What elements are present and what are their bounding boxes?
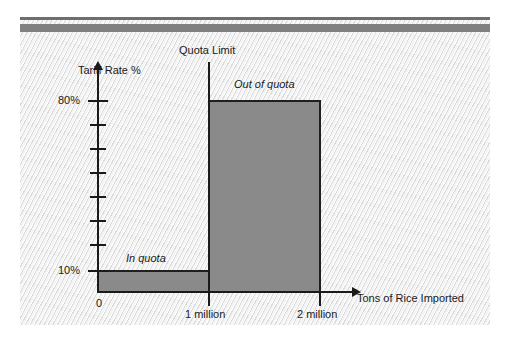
x-tick-1-million: [208, 293, 210, 306]
in-quota-label: In quota: [126, 252, 166, 264]
y-tick-minor-2: [90, 148, 106, 150]
bar-in-quota: [97, 270, 210, 293]
out-of-quota-label: Out of quota: [234, 78, 295, 90]
y-tick-minor-1: [90, 124, 106, 126]
y-tick-label-80: 80%: [58, 94, 80, 106]
quota-limit-line: [208, 62, 210, 294]
x-axis-title: Tons of Rice Imported: [357, 292, 464, 304]
y-tick-minor-6: [90, 244, 106, 246]
bar-out-of-quota: [208, 100, 321, 293]
origin-label: 0: [96, 297, 102, 309]
y-tick-80: [88, 100, 108, 102]
x-tick-2-million: [319, 293, 321, 306]
x-tick-label-2-million: 2 million: [297, 308, 337, 320]
x-axis-line: [97, 291, 356, 293]
quota-limit-label: Quota Limit: [179, 44, 235, 56]
x-tick-label-1-million: 1 million: [185, 308, 225, 320]
y-tick-minor-3: [90, 172, 106, 174]
y-tick-label-10: 10%: [58, 264, 80, 276]
y-tick-10: [88, 270, 108, 272]
y-tick-minor-4: [90, 196, 106, 198]
y-tick-minor-5: [90, 220, 106, 222]
y-axis-title: Tariff Rate %: [78, 64, 141, 76]
plot-area: Tariff Rate % 80% 10% 0 1 million 2 mill…: [0, 0, 509, 347]
tariff-rate-quota-figure: Tariff Rate % 80% 10% 0 1 million 2 mill…: [0, 0, 509, 347]
